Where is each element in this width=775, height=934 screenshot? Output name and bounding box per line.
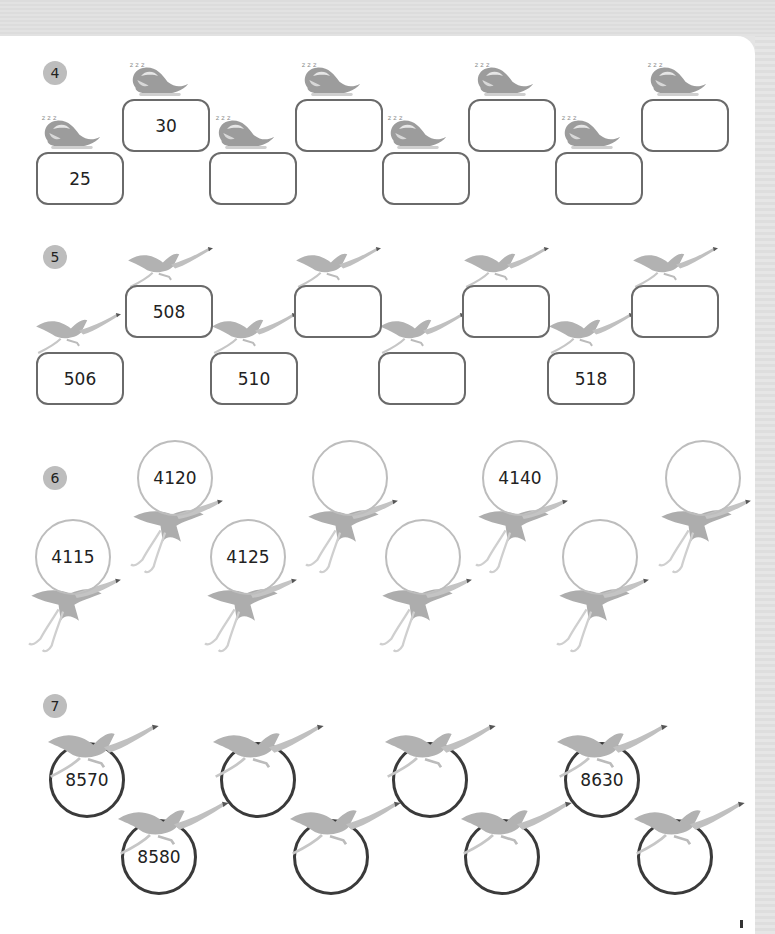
answer-circle[interactable]: 8630 bbox=[564, 742, 640, 818]
answer-box[interactable] bbox=[295, 99, 383, 152]
answer-circle[interactable] bbox=[312, 440, 388, 516]
answer-box[interactable] bbox=[641, 99, 729, 152]
answer-circle[interactable] bbox=[464, 819, 540, 895]
answer-box[interactable]: 508 bbox=[125, 285, 213, 338]
page-tick-mark bbox=[740, 920, 743, 928]
answer-circle[interactable] bbox=[637, 819, 713, 895]
page-header-band bbox=[0, 0, 775, 36]
exercise-number-badge: 4 bbox=[43, 61, 67, 85]
page-edge-strip bbox=[755, 36, 775, 934]
answer-box[interactable] bbox=[378, 352, 466, 405]
answer-circle[interactable] bbox=[665, 440, 741, 516]
answer-box[interactable] bbox=[555, 152, 643, 205]
answer-circle[interactable]: 4120 bbox=[137, 440, 213, 516]
answer-circle[interactable] bbox=[220, 742, 296, 818]
exercise-number-badge: 7 bbox=[43, 694, 67, 718]
exercise-number-badge: 6 bbox=[43, 466, 67, 490]
answer-circle[interactable] bbox=[392, 742, 468, 818]
answer-box[interactable] bbox=[382, 152, 470, 205]
exercise-number-badge: 5 bbox=[43, 245, 67, 269]
answer-circle[interactable] bbox=[562, 519, 638, 595]
answer-circle[interactable]: 4115 bbox=[35, 519, 111, 595]
answer-circle[interactable]: 8570 bbox=[49, 742, 125, 818]
answer-box[interactable] bbox=[294, 285, 382, 338]
answer-box[interactable]: 506 bbox=[36, 352, 124, 405]
answer-circle[interactable] bbox=[385, 519, 461, 595]
answer-box[interactable] bbox=[462, 285, 550, 338]
answer-box[interactable]: 518 bbox=[547, 352, 635, 405]
answer-box[interactable]: 30 bbox=[122, 99, 210, 152]
answer-box[interactable] bbox=[631, 285, 719, 338]
answer-circle[interactable] bbox=[293, 819, 369, 895]
answer-box[interactable] bbox=[209, 152, 297, 205]
answer-circle[interactable]: 4140 bbox=[482, 440, 558, 516]
answer-box[interactable]: 510 bbox=[210, 352, 298, 405]
answer-box[interactable] bbox=[468, 99, 556, 152]
answer-circle[interactable]: 4125 bbox=[210, 519, 286, 595]
answer-box[interactable]: 25 bbox=[36, 152, 124, 205]
answer-circle[interactable]: 8580 bbox=[121, 819, 197, 895]
